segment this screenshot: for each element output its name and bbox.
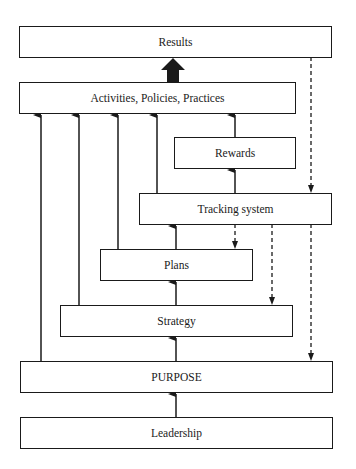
tracking-system-label: Tracking system xyxy=(198,203,274,215)
thick-arrow-activities-to-results xyxy=(161,58,185,82)
rewards-label: Rewards xyxy=(215,147,255,159)
results-box: Results xyxy=(19,26,332,58)
rewards-box: Rewards xyxy=(174,137,296,169)
plans-label: Plans xyxy=(164,259,189,271)
plans-box: Plans xyxy=(100,249,253,281)
purpose-label: PURPOSE xyxy=(151,371,202,383)
activities-label: Activities, Policies, Practices xyxy=(90,92,224,104)
tracking-system-box: Tracking system xyxy=(139,193,332,225)
leadership-label: Leadership xyxy=(151,427,202,439)
results-label: Results xyxy=(159,36,193,48)
connector-layer xyxy=(0,0,356,469)
strategy-label: Strategy xyxy=(157,315,195,327)
activities-box: Activities, Policies, Practices xyxy=(19,82,296,114)
leadership-box: Leadership xyxy=(20,417,333,449)
purpose-box: PURPOSE xyxy=(20,361,333,393)
strategy-box: Strategy xyxy=(60,305,293,337)
